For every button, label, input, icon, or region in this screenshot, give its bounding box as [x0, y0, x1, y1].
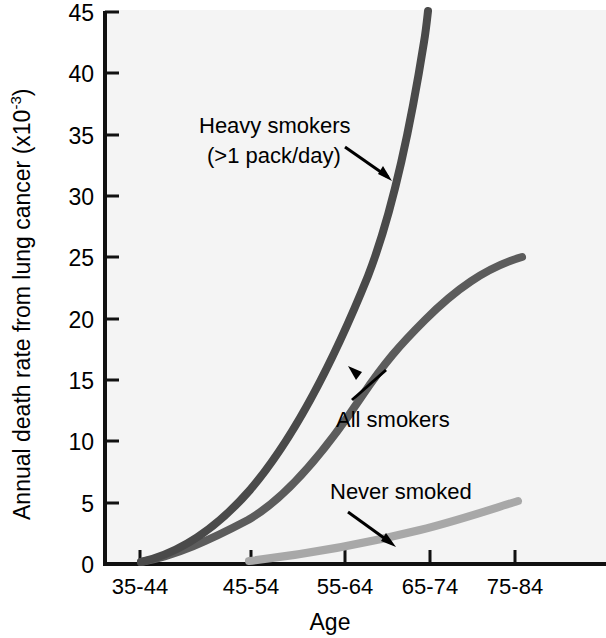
- annotation-all-smokers-line1: All smokers: [336, 407, 450, 432]
- y-axis-title-superscript: -3: [7, 96, 24, 109]
- x-axis-title: Age: [310, 609, 351, 635]
- x-tick-label-75-84: 75-84: [487, 574, 543, 599]
- y-tick-label-0: 0: [81, 552, 94, 578]
- y-tick-label-10: 10: [68, 429, 94, 455]
- y-tick-label-20: 20: [68, 307, 94, 333]
- annotation-never-smoked-line1: Never smoked: [330, 479, 472, 504]
- y-tick-label-5: 5: [81, 491, 94, 517]
- lung-cancer-death-rate-chart: 45 40 35 30 25 20 15 10 5 0 35-44 45-54 …: [0, 0, 606, 638]
- y-tick-label-30: 30: [68, 184, 94, 210]
- x-tick-label-65-74: 65-74: [402, 574, 458, 599]
- x-tick-label-45-54: 45-54: [223, 574, 279, 599]
- y-tick-label-25: 25: [68, 245, 94, 271]
- annotation-heavy-smokers-line2: (>1 pack/day): [207, 143, 341, 168]
- y-axis-title-suffix: ): [9, 89, 35, 97]
- x-tick-label-35-44: 35-44: [112, 574, 168, 599]
- annotation-heavy-smokers-line1: Heavy smokers: [199, 113, 351, 138]
- x-tick-label-55-64: 55-64: [317, 574, 373, 599]
- y-axis-title: Annual death rate from lung cancer (x10-…: [7, 89, 35, 520]
- y-tick-label-35: 35: [68, 123, 94, 149]
- y-tick-label-45: 45: [68, 0, 94, 26]
- y-tick-label-15: 15: [68, 368, 94, 394]
- y-axis-title-main: Annual death rate from lung cancer (x10: [9, 110, 35, 520]
- svg-text:Annual death rate from lung ca: Annual death rate from lung cancer (x10-…: [7, 89, 35, 520]
- chart-svg: 45 40 35 30 25 20 15 10 5 0 35-44 45-54 …: [0, 0, 606, 638]
- y-tick-label-40: 40: [68, 61, 94, 87]
